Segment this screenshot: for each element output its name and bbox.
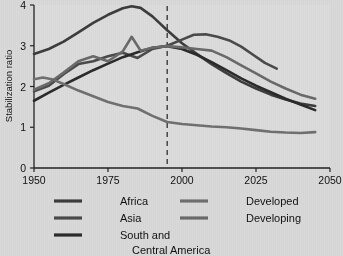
y-tick-label: 4 xyxy=(20,0,26,11)
legend-label-africa: Africa xyxy=(120,195,149,207)
y-tick-label: 3 xyxy=(20,40,26,52)
plot-area-background xyxy=(34,5,330,168)
y-tick-label: 0 xyxy=(20,162,26,174)
x-tick-label: 1975 xyxy=(96,174,120,186)
legend-label-developing: Developing xyxy=(246,212,301,224)
stabilization-ratio-line-chart: 01234 19501975200020252050 Stabilization… xyxy=(0,0,343,256)
x-tick-label: 2050 xyxy=(318,174,342,186)
legend-label-south-and: South and xyxy=(120,229,170,241)
x-tick-label: 1950 xyxy=(22,174,46,186)
legend-label-asia: Asia xyxy=(120,212,142,224)
legend-label-developed: Developed xyxy=(246,195,299,207)
y-tick-label: 1 xyxy=(20,121,26,133)
x-tick-label: 2025 xyxy=(244,174,268,186)
x-tick-label: 2000 xyxy=(170,174,194,186)
y-axis-label: Stabilization ratio xyxy=(3,50,14,122)
legend-label-south-and-line2: Central America xyxy=(132,244,211,256)
y-tick-label: 2 xyxy=(20,81,26,93)
chart-figure: 01234 19501975200020252050 Stabilization… xyxy=(0,0,343,256)
